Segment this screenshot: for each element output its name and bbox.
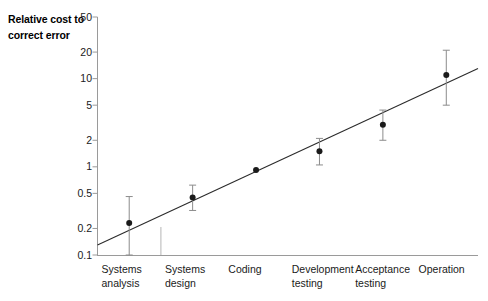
- x-axis-tick-label: Systemsdesign: [165, 262, 205, 290]
- x-axis-tick-label: Systemsanalysis: [102, 262, 142, 290]
- x-axis-tick-label-line: design: [165, 276, 205, 290]
- x-axis-tick-label-line: testing: [355, 276, 410, 290]
- x-axis-tick-label-line: Operation: [419, 262, 465, 276]
- x-axis-tick-label: Acceptancetesting: [355, 262, 410, 290]
- x-axis-tick-label-line: testing: [292, 276, 354, 290]
- x-axis-tick-label-line: Development: [292, 262, 354, 276]
- x-axis-tick-label: Developmenttesting: [292, 262, 354, 290]
- x-axis-tick-label-line: Systems: [102, 262, 142, 276]
- x-axis-tick-label: Coding: [228, 262, 261, 276]
- x-axis-tick-label: Operation: [419, 262, 465, 276]
- x-axis-tick-labels: SystemsanalysisSystemsdesignCodingDevelo…: [0, 0, 488, 301]
- x-axis-tick-label-line: Coding: [228, 262, 261, 276]
- x-axis-tick-label-line: Acceptance: [355, 262, 410, 276]
- x-axis-tick-label-line: analysis: [102, 276, 142, 290]
- chart-container: Relative cost to correct error 502010521…: [0, 0, 488, 301]
- x-axis-tick-label-line: Systems: [165, 262, 205, 276]
